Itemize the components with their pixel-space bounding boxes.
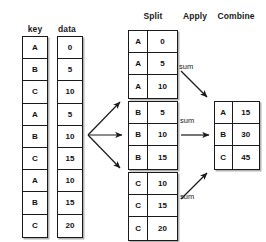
split-key-cell: A — [129, 31, 148, 52]
data-column-table: 0 5 10 5 10 15 10 15 20 — [57, 36, 83, 238]
table-row: C — [23, 81, 47, 103]
data-cell: 5 — [58, 104, 82, 125]
table-row: 5 — [58, 104, 82, 126]
table-row: C 15 — [129, 195, 177, 217]
key-cell: B — [23, 59, 47, 80]
data-cell: 10 — [58, 81, 82, 102]
table-row: C 10 — [129, 173, 177, 195]
key-cell: B — [23, 192, 47, 213]
split-value-cell: 0 — [148, 31, 177, 52]
split-key-cell: B — [129, 124, 148, 145]
data-cell: 5 — [58, 59, 82, 80]
split-value-cell: 15 — [148, 146, 177, 168]
split-key-cell: B — [129, 146, 148, 168]
table-row: C — [23, 148, 47, 170]
table-row: B — [23, 192, 47, 214]
key-cell: B — [23, 126, 47, 147]
table-row: 0 — [58, 37, 82, 59]
header-combine: Combine — [208, 11, 264, 21]
table-row: 10 — [58, 81, 82, 103]
split-group-b-table: B 5 B 10 B 15 — [128, 101, 178, 170]
table-row: 10 — [58, 170, 82, 192]
combine-key-cell: A — [215, 102, 233, 123]
table-row: 20 — [58, 215, 82, 237]
table-row: B 10 — [129, 124, 177, 146]
table-row: A 0 — [129, 31, 177, 53]
key-column-table: A B C A B C A B C — [22, 36, 48, 238]
split-group-a-table: A 0 A 5 A 10 — [128, 30, 178, 99]
key-cell: C — [23, 215, 47, 237]
split-key-cell: C — [129, 195, 148, 216]
split-key-cell: A — [129, 53, 148, 74]
table-row: A 5 — [129, 53, 177, 75]
table-row: B — [23, 59, 47, 81]
split-key-cell: A — [129, 75, 148, 97]
table-row: B — [23, 126, 47, 148]
key-cell: A — [23, 104, 47, 125]
data-cell: 10 — [58, 126, 82, 147]
table-row: A 10 — [129, 75, 177, 97]
data-cell: 0 — [58, 37, 82, 58]
split-value-cell: 20 — [148, 217, 177, 239]
table-row: B 30 — [215, 124, 259, 146]
split-value-cell: 10 — [148, 124, 177, 145]
split-key-cell: C — [129, 217, 148, 239]
header-key: key — [22, 24, 48, 34]
combine-table: A 15 B 30 C 45 — [214, 101, 260, 170]
table-row: A — [23, 170, 47, 192]
table-row: C — [23, 215, 47, 237]
split-key-cell: C — [129, 173, 148, 194]
split-value-cell: 10 — [148, 75, 177, 97]
data-cell: 15 — [58, 192, 82, 213]
table-row: B 15 — [129, 146, 177, 168]
split-value-cell: 10 — [148, 173, 177, 194]
data-cell: 20 — [58, 215, 82, 237]
table-row: C 45 — [215, 146, 259, 168]
header-data: data — [52, 24, 82, 34]
key-cell: C — [23, 81, 47, 102]
split-key-cell: B — [129, 102, 148, 123]
table-row: A 15 — [215, 102, 259, 124]
table-row: 10 — [58, 126, 82, 148]
split-group-c-table: C 10 C 15 C 20 — [128, 172, 178, 241]
key-cell: A — [23, 37, 47, 58]
apply-label-sum-a: sum — [179, 62, 193, 71]
key-cell: C — [23, 148, 47, 169]
table-row: A — [23, 104, 47, 126]
combine-value-cell: 45 — [233, 146, 259, 168]
combine-value-cell: 30 — [233, 124, 259, 145]
split-value-cell: 15 — [148, 195, 177, 216]
split-arrows — [88, 102, 122, 168]
split-value-cell: 5 — [148, 53, 177, 74]
table-row: 15 — [58, 148, 82, 170]
diagram-canvas: key data Split Apply Combine A B C A B C… — [0, 0, 266, 242]
combine-key-cell: B — [215, 124, 233, 145]
table-row: A — [23, 37, 47, 59]
data-cell: 15 — [58, 148, 82, 169]
table-row: 5 — [58, 59, 82, 81]
table-row: 15 — [58, 192, 82, 214]
apply-arrows — [181, 71, 209, 199]
combine-key-cell: C — [215, 146, 233, 168]
table-row: C 20 — [129, 217, 177, 239]
data-cell: 10 — [58, 170, 82, 191]
table-row: B 5 — [129, 102, 177, 124]
combine-value-cell: 15 — [233, 102, 259, 123]
key-cell: A — [23, 170, 47, 191]
apply-label-sum-c: sum — [180, 192, 194, 201]
apply-label-sum-b: sum — [180, 116, 194, 125]
split-value-cell: 5 — [148, 102, 177, 123]
